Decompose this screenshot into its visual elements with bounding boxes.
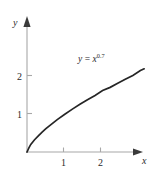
function-graph-figure: y x 1 2 1 2 y=x0.7 — [0, 0, 153, 170]
y-tick-label-2: 2 — [17, 71, 22, 82]
x-axis-label: x — [141, 155, 147, 166]
label-layer: y x 1 2 1 2 y=x0.7 — [0, 0, 153, 170]
x-tick-label-2: 2 — [98, 157, 103, 168]
x-tick-label-1: 1 — [61, 157, 66, 168]
curve-equation-label: y=x0.7 — [77, 52, 105, 64]
equation-exponent: 0.7 — [97, 52, 105, 59]
equation-lhs: y — [77, 54, 83, 64]
y-tick-label-1: 1 — [17, 109, 22, 120]
y-axis-label: y — [12, 17, 18, 28]
equation-equals-sign: = — [85, 54, 90, 64]
